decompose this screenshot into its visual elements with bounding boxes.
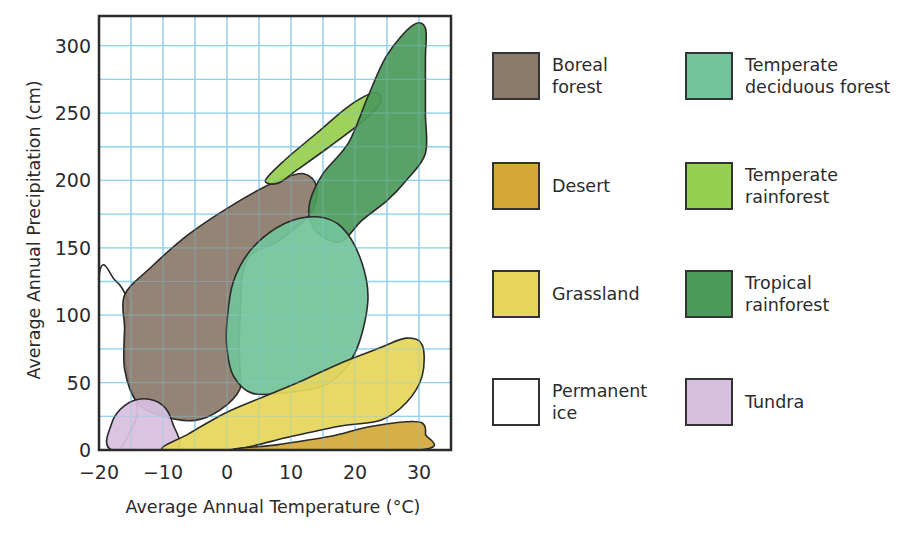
- y-tick-label: 250: [55, 102, 91, 124]
- legend-item-permanent-ice: Permanent ice: [492, 378, 647, 426]
- legend-label: Tundra: [745, 391, 804, 413]
- y-tick-label: 200: [55, 169, 91, 191]
- y-tick-label: 50: [67, 372, 91, 394]
- x-axis-ticks: −20−100102030: [79, 461, 431, 483]
- legend-item-desert: Desert: [492, 162, 610, 210]
- legend-label: Desert: [552, 175, 610, 197]
- x-tick-label: −20: [79, 461, 119, 483]
- legend-swatch: [492, 378, 540, 426]
- legend-label: Grassland: [552, 283, 640, 305]
- legend-item-tropical-rainforest: Tropical rainforest: [685, 270, 829, 318]
- legend-swatch: [492, 162, 540, 210]
- legend-swatch: [492, 270, 540, 318]
- legend-swatch: [685, 378, 733, 426]
- legend-item-tundra: Tundra: [685, 378, 804, 426]
- y-tick-label: 100: [55, 304, 91, 326]
- legend-label: Boreal forest: [552, 54, 608, 98]
- legend-swatch: [685, 270, 733, 318]
- legend-label: Temperate rainforest: [745, 164, 838, 208]
- legend-swatch: [492, 52, 540, 100]
- legend-label: Permanent ice: [552, 380, 647, 424]
- y-axis-title: Average Annual Precipitation (cm): [24, 80, 44, 379]
- legend-item-grassland: Grassland: [492, 270, 640, 318]
- legend-item-temperate-rainforest: Temperate rainforest: [685, 162, 838, 210]
- legend-item-temperate-deciduous-forest: Temperate deciduous forest: [685, 52, 890, 100]
- legend-swatch: [685, 52, 733, 100]
- x-tick-label: 20: [343, 461, 367, 483]
- x-tick-label: 30: [407, 461, 431, 483]
- x-axis-title: Average Annual Temperature (°C): [126, 497, 421, 517]
- legend-label: Temperate deciduous forest: [745, 54, 890, 98]
- x-tick-label: 10: [279, 461, 303, 483]
- x-tick-label: −10: [143, 461, 183, 483]
- legend: Boreal forest Temperate deciduous forest…: [492, 52, 912, 432]
- legend-label: Tropical rainforest: [745, 272, 829, 316]
- y-axis-ticks: 050100150200250300: [55, 35, 91, 461]
- y-tick-label: 150: [55, 237, 91, 259]
- x-tick-label: 0: [221, 461, 233, 483]
- y-tick-label: 0: [79, 439, 91, 461]
- legend-item-boreal-forest: Boreal forest: [492, 52, 608, 100]
- legend-swatch: [685, 162, 733, 210]
- y-tick-label: 300: [55, 35, 91, 57]
